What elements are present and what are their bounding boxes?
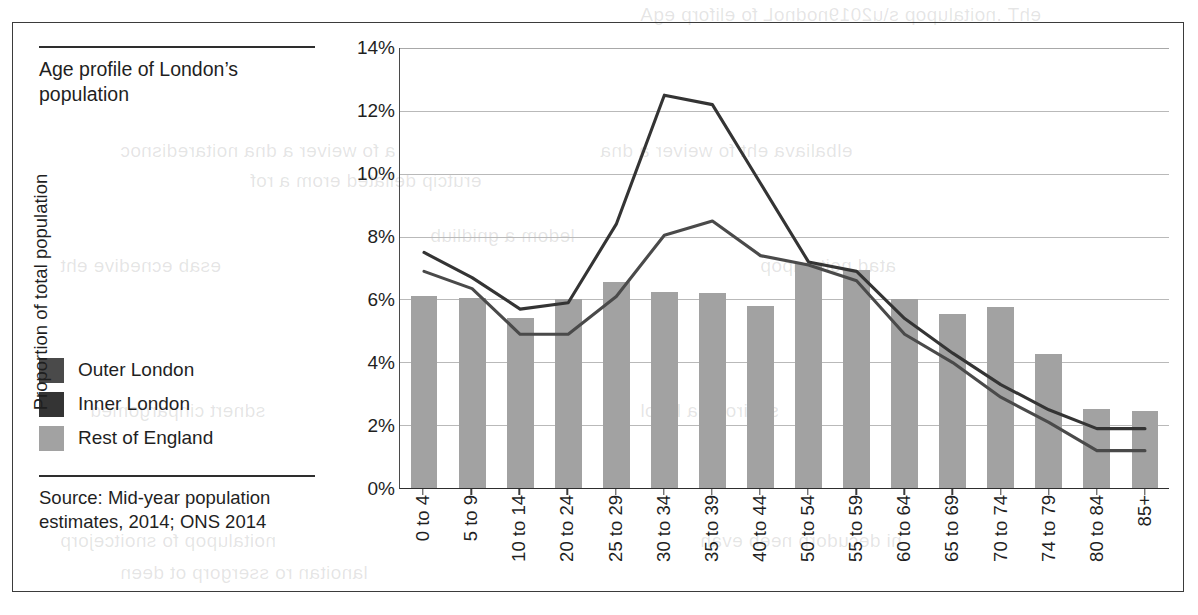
x-tick-slot: 70 to 74: [977, 489, 1025, 609]
y-axis-label: Proportion of total population: [30, 112, 52, 472]
x-tick-slot: 35 to 39: [688, 489, 736, 609]
x-tick-slot: 50 to 54: [784, 489, 832, 609]
x-axis-tick-label: 65 to 69: [941, 495, 963, 562]
y-axis-ticks: 0%2%4%6%8%10%12%14%: [343, 37, 395, 489]
x-axis-tick-label: 0 to 4: [412, 495, 434, 541]
title-divider: [39, 46, 315, 48]
x-tick-slot: 65 to 69: [928, 489, 976, 609]
x-tick-slot: 80 to 84: [1073, 489, 1121, 609]
x-axis-tick-label: 55 to 59: [845, 495, 867, 562]
legend-label-rest-of-england: Rest of England: [78, 427, 213, 449]
y-axis-tick-label: 0%: [368, 478, 395, 500]
x-axis-tick-label: 5 to 9: [460, 495, 482, 541]
legend-item-outer-london[interactable]: Outer London: [39, 353, 319, 387]
x-tick-slot: 40 to 44: [736, 489, 784, 609]
x-axis-tick-label: 70 to 74: [990, 495, 1012, 562]
plot-area: [399, 48, 1169, 489]
x-axis-tick-label: 35 to 39: [701, 495, 723, 562]
y-axis-tick-label: 10%: [357, 163, 395, 185]
line-series-group: [400, 48, 1169, 488]
x-axis-tick-label: 50 to 54: [797, 495, 819, 562]
x-tick-slot: 20 to 24: [543, 489, 591, 609]
x-axis-tick-label: 20 to 24: [556, 495, 578, 562]
legend-item-rest-of-england[interactable]: Rest of England: [39, 421, 319, 455]
x-axis-tick-label: 40 to 44: [749, 495, 771, 562]
legend-item-inner-london[interactable]: Inner London: [39, 387, 319, 421]
x-tick-slot: 74 to 79: [1025, 489, 1073, 609]
x-axis-tick-label: 80 to 84: [1086, 495, 1108, 562]
x-tick-slot: 60 to 64: [880, 489, 928, 609]
source-divider: [39, 475, 315, 477]
legend: Outer London Inner London Rest of Englan…: [39, 353, 319, 455]
x-tick-slot: 0 to 4: [399, 489, 447, 609]
y-axis-tick-label: 12%: [357, 100, 395, 122]
y-axis-tick-label: 4%: [368, 352, 395, 374]
x-tick-slot: 10 to 14: [495, 489, 543, 609]
x-tick-slot: 55 to 59: [832, 489, 880, 609]
x-axis-ticks: 0 to 45 to 910 to 1420 to 2425 to 2930 t…: [399, 489, 1169, 609]
x-tick-slot: 30 to 34: [640, 489, 688, 609]
figure-container: Age profile of London’s population Outer…: [12, 22, 1184, 592]
x-axis-tick-label: 10 to 14: [508, 495, 530, 562]
line-outer-london[interactable]: [424, 221, 1145, 451]
y-axis-tick-label: 8%: [368, 226, 395, 248]
figure-left-panel: Age profile of London’s population Outer…: [13, 23, 335, 591]
x-axis-tick-label: 30 to 34: [653, 495, 675, 562]
x-axis-tick-label: 60 to 64: [893, 495, 915, 562]
x-axis-tick-label: 85+: [1134, 495, 1156, 526]
x-tick-slot: 85+: [1121, 489, 1169, 609]
y-axis-tick-label: 14%: [357, 37, 395, 59]
x-axis-tick-label: 25 to 29: [605, 495, 627, 562]
x-tick-slot: 25 to 29: [592, 489, 640, 609]
page-title: Age profile of London’s population: [39, 57, 319, 107]
y-axis-tick-label: 2%: [368, 415, 395, 437]
legend-label-inner-london: Inner London: [78, 393, 190, 415]
legend-label-outer-london: Outer London: [78, 359, 194, 381]
x-tick-slot: 5 to 9: [447, 489, 495, 609]
y-axis-tick-label: 6%: [368, 289, 395, 311]
source-note: Source: Mid-year population estimates, 2…: [39, 486, 329, 534]
x-axis-tick-label: 74 to 79: [1038, 495, 1060, 562]
